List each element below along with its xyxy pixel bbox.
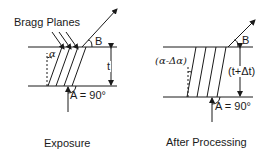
alpha-label: α: [49, 49, 56, 59]
alpha-angle-arc: [188, 72, 191, 73]
angle-B-label: B: [95, 36, 102, 47]
fringe-plane: [207, 47, 216, 97]
exposure-caption: Exposure: [44, 138, 90, 149]
thickness-t-plus-delta-label: (t+Δt): [227, 66, 256, 77]
thickness-t-label: t: [106, 61, 111, 72]
angle-A-label: A = 90°: [70, 90, 106, 101]
fringe-plane: [217, 47, 226, 97]
fringe-plane: [197, 47, 206, 97]
bragg-pointer-arrow: [52, 32, 64, 49]
bragg-pointer-arrow: [66, 32, 78, 49]
alpha-minus-delta-label: (α-Δα): [155, 56, 187, 66]
after-processing-caption: After Processing: [166, 137, 247, 148]
angle-B-arc: [88, 40, 92, 47]
angle-B-label: B: [242, 35, 249, 46]
angle-A-label: A = 90°: [215, 101, 251, 112]
fringe-plane: [56, 47, 70, 86]
fringe-plane: [64, 47, 78, 86]
bragg-pointer-arrow: [59, 32, 71, 49]
bragg-planes-label: Bragg Planes: [14, 17, 80, 28]
fringe-plane: [72, 47, 86, 86]
